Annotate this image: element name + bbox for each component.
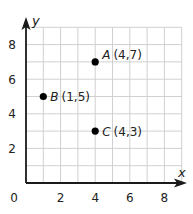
point-label: B(1,5)	[50, 90, 90, 104]
coordinate-plane: y x 0 2468 2468 A(4,7)B(1,5)C(4,3)	[0, 0, 193, 214]
point-marker-icon	[92, 58, 99, 65]
x-tick-label: 8	[161, 191, 169, 205]
x-tick-labels: 2468	[57, 191, 168, 205]
point-a: A(4,7)	[92, 48, 142, 66]
y-tick-label: 4	[8, 107, 16, 121]
y-tick-label: 2	[8, 142, 16, 156]
point-marker-icon	[92, 128, 99, 135]
y-tick-label: 6	[8, 73, 16, 87]
x-axis-label: x	[177, 165, 186, 180]
axes	[22, 17, 188, 188]
point-marker-icon	[40, 93, 47, 100]
origin-label: 0	[10, 191, 18, 205]
x-tick-label: 6	[126, 191, 134, 205]
y-tick-label: 8	[8, 38, 16, 52]
point-label: A(4,7)	[101, 48, 142, 62]
x-tick-label: 4	[91, 191, 99, 205]
y-axis-label: y	[31, 13, 40, 28]
y-tick-labels: 2468	[8, 38, 16, 156]
point-label: C(4,3)	[102, 125, 142, 139]
x-tick-label: 2	[57, 191, 65, 205]
